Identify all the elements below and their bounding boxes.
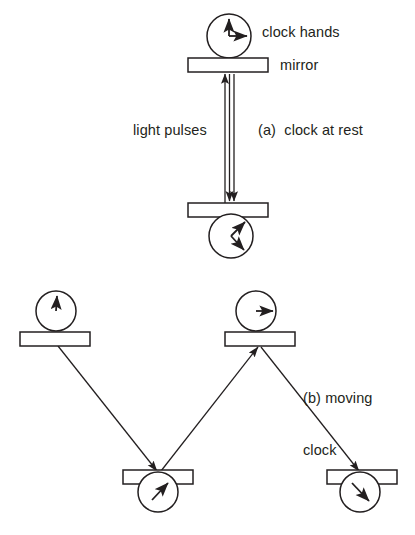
mirror-top-rest [188,58,268,72]
caption-panel-b-line1: (b) moving [303,390,373,407]
clock-bottom-middle-moving [138,472,178,512]
caption-panel-b-line2: clock [303,442,373,459]
label-light-pulses: light pulses [133,122,207,139]
beam-segment-down-left [58,346,157,471]
light-pulse-beam-rest [225,74,234,203]
label-clock-hands: clock hands [262,24,340,41]
mirror-top-right-moving [225,332,295,346]
mirror-top-left-moving [20,332,90,346]
label-mirror: mirror [280,57,318,74]
clock-top-rest [207,14,251,58]
clock-top-left-moving [36,291,76,331]
clock-top-right-moving [236,291,276,331]
clock-bottom-rest [209,214,253,258]
caption-panel-a: (a) clock at rest [258,122,363,139]
figure-canvas: clock hands mirror light pulses (a) cloc… [0,0,415,535]
beam-segment-up-right [161,347,258,471]
caption-panel-b: (b) moving clock [303,356,373,493]
clock-face [138,472,178,512]
clock-hand-12 [56,296,57,311]
